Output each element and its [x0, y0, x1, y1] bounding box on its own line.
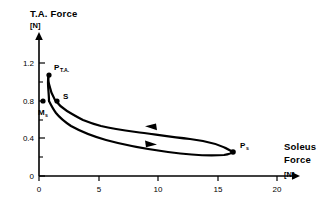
- x-tick-4: 20: [273, 185, 282, 194]
- point-labels: P T.A. S M s P s: [38, 63, 249, 151]
- label-ps-sub: s: [246, 145, 249, 151]
- x-axis-title-line1: Soleus: [284, 141, 316, 152]
- marker-s: [54, 98, 59, 103]
- marker-ps: [230, 149, 236, 155]
- x-axis-unit: [N]: [284, 170, 294, 179]
- x-axis-title-line2: Force: [284, 154, 311, 165]
- y-tick-0: 0: [30, 172, 35, 181]
- y-axis-tick-labels: 0 0.4 0.8 1.2: [23, 59, 35, 181]
- x-tick-1: 5: [97, 185, 102, 194]
- marker-ms: [40, 98, 45, 103]
- label-s: S: [63, 92, 69, 101]
- hysteresis-loop: [48, 75, 233, 155]
- x-axis-tick-labels: 0 5 10 15 20: [37, 185, 282, 194]
- chart-figure: T.A. Force [N] Soleus Force [N] 0 5 10 1…: [0, 0, 336, 204]
- curve-upper-branch: [48, 75, 233, 152]
- label-ms-sub: s: [45, 112, 48, 118]
- x-tick-0: 0: [37, 185, 42, 194]
- y-axis-unit: [N]: [30, 21, 40, 30]
- y-tick-1: 0.4: [23, 134, 35, 143]
- curve-rise-branch: [48, 75, 49, 101]
- marker-peak-ta: [46, 72, 51, 77]
- arrow-right-icon: [145, 140, 157, 147]
- y-axis-title: T.A. Force: [30, 8, 77, 19]
- y-tick-3: 1.2: [23, 59, 35, 68]
- curve-lower-branch: [49, 101, 233, 155]
- x-tick-3: 15: [214, 185, 223, 194]
- y-axis-ticks: [39, 63, 45, 176]
- label-peak-ta-sub: T.A.: [60, 67, 70, 73]
- x-tick-2: 10: [154, 185, 163, 194]
- axis-lines: [35, 32, 300, 180]
- arrow-left-icon: [145, 124, 157, 131]
- label-ms-base: M: [38, 108, 45, 117]
- y-tick-2: 0.8: [23, 97, 35, 106]
